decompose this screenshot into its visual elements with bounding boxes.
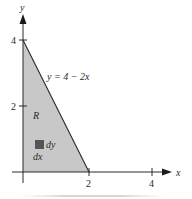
y-axis-label: y (19, 2, 25, 13)
y-tick-label-2: 2 (11, 101, 16, 112)
dx-label: dx (33, 151, 43, 162)
dy-label: dy (46, 139, 56, 150)
curve-label: y = 4 − 2x (46, 71, 90, 82)
y-tick-label-4: 4 (11, 35, 16, 46)
region-label: R (32, 110, 39, 121)
x-axis-arrow-icon (162, 169, 172, 176)
x-tick-label-4: 4 (149, 178, 154, 189)
region-diagram: y x 4 2 2 4 y = 4 − 2x R dy dx (0, 0, 192, 199)
bottom-shadow (18, 195, 168, 197)
x-tick-label-2: 2 (86, 178, 91, 189)
area-element (35, 140, 44, 149)
x-axis-label: x (175, 167, 181, 178)
y-axis-arrow-icon (20, 14, 27, 24)
